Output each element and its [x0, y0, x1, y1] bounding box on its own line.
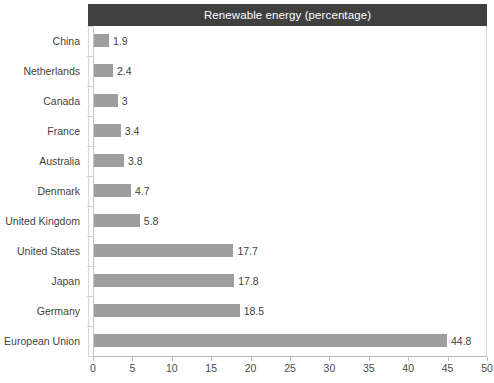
- bar-row: Japan17.8: [0, 266, 494, 296]
- bar: [94, 94, 118, 107]
- category-tick: [87, 26, 93, 27]
- x-axis-tick: [369, 357, 370, 361]
- x-axis-tick: [211, 357, 212, 361]
- bar-row: Canada3: [0, 86, 494, 116]
- x-axis-tick-label: 40: [402, 362, 414, 374]
- x-axis-tick: [448, 357, 449, 361]
- bar: [94, 184, 131, 197]
- x-axis-tick-label: 20: [245, 362, 257, 374]
- category-tick: [87, 296, 93, 297]
- bar-row: Germany18.5: [0, 296, 494, 326]
- x-axis-tick: [408, 357, 409, 361]
- x-axis-tick-label: 10: [166, 362, 178, 374]
- bar-row: China1.9: [0, 26, 494, 56]
- bar-value-label: 4.7: [135, 184, 150, 197]
- bar-row: European Union44.8: [0, 326, 494, 356]
- category-label: China: [0, 26, 80, 56]
- x-axis-tick-label: 25: [284, 362, 296, 374]
- bar-value-label: 2.4: [117, 64, 132, 77]
- bar: [94, 214, 140, 227]
- bar-value-label: 1.9: [113, 34, 128, 47]
- category-label: United Kingdom: [0, 206, 80, 236]
- category-tick: [87, 176, 93, 177]
- bar-row: Australia3.8: [0, 146, 494, 176]
- category-tick: [87, 56, 93, 57]
- category-label: Japan: [0, 266, 80, 296]
- category-tick: [87, 86, 93, 87]
- x-axis-tick: [93, 357, 94, 361]
- category-label: Canada: [0, 86, 80, 116]
- bar: [94, 64, 113, 77]
- x-axis-tick-label: 30: [324, 362, 336, 374]
- bar-value-label: 3.4: [125, 124, 140, 137]
- bar: [94, 154, 124, 167]
- bar-row: Netherlands2.4: [0, 56, 494, 86]
- category-label: Denmark: [0, 176, 80, 206]
- bar-value-label: 44.8: [451, 334, 471, 347]
- x-axis-tick-label: 15: [205, 362, 217, 374]
- bar-value-label: 5.8: [144, 214, 159, 227]
- x-axis-tick: [132, 357, 133, 361]
- category-tick: [87, 236, 93, 237]
- bar-value-label: 3.8: [128, 154, 143, 167]
- category-tick: [87, 146, 93, 147]
- bar-value-label: 18.5: [244, 304, 264, 317]
- category-label: Australia: [0, 146, 80, 176]
- category-tick: [87, 116, 93, 117]
- bar: [94, 34, 109, 47]
- x-axis-tick-label: 45: [442, 362, 454, 374]
- bar-value-label: 17.7: [237, 244, 257, 257]
- bar-row: United Kingdom5.8: [0, 206, 494, 236]
- category-tick: [87, 206, 93, 207]
- renewable-energy-bar-chart: Renewable energy (percentage) China1.9Ne…: [0, 0, 494, 383]
- bar-value-label: 17.8: [238, 274, 258, 287]
- bar: [94, 304, 240, 317]
- category-tick: [87, 326, 93, 327]
- chart-title: Renewable energy (percentage): [88, 4, 487, 26]
- x-axis-tick-label: 50: [481, 362, 493, 374]
- category-label: Netherlands: [0, 56, 80, 86]
- bar-value-label: 3: [122, 94, 128, 107]
- bar-row: France3.4: [0, 116, 494, 146]
- x-axis-tick-label: 5: [129, 362, 135, 374]
- x-axis-tick: [329, 357, 330, 361]
- category-label: France: [0, 116, 80, 146]
- bar-rows: China1.9Netherlands2.4Canada3France3.4Au…: [0, 26, 494, 357]
- category-label: United States: [0, 236, 80, 266]
- x-axis-tick-label: 0: [90, 362, 96, 374]
- x-axis-tick: [172, 357, 173, 361]
- category-tick: [87, 266, 93, 267]
- x-axis-tick: [487, 357, 488, 361]
- x-axis-tick: [251, 357, 252, 361]
- x-axis-tick-label: 35: [363, 362, 375, 374]
- category-label: Germany: [0, 296, 80, 326]
- bar: [94, 334, 447, 347]
- bar: [94, 274, 234, 287]
- bar-row: United States17.7: [0, 236, 494, 266]
- bar: [94, 244, 233, 257]
- bar: [94, 124, 121, 137]
- x-axis-tick: [290, 357, 291, 361]
- bar-row: Denmark4.7: [0, 176, 494, 206]
- category-label: European Union: [0, 326, 80, 356]
